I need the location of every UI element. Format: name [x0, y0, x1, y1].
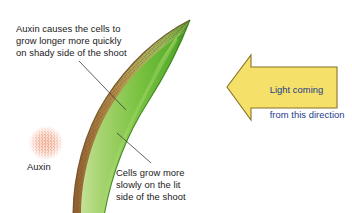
shady-side-note: Auxin causes the cells to grow longer mo… [16, 23, 127, 60]
auxin-label: Auxin [27, 161, 51, 173]
auxin-dots [26, 123, 66, 163]
light-arrow-label: Light coming from this direction [259, 72, 345, 134]
light-arrow-label-line2: from this direction [270, 109, 345, 120]
light-arrow-label-line1: Light coming [270, 84, 324, 95]
diagram-canvas: Auxin causes the cells to grow longer mo… [0, 0, 352, 213]
lit-side-note: Cells grow more slowly on the lit side o… [116, 167, 186, 204]
auxin-stipple-icon [26, 123, 66, 163]
